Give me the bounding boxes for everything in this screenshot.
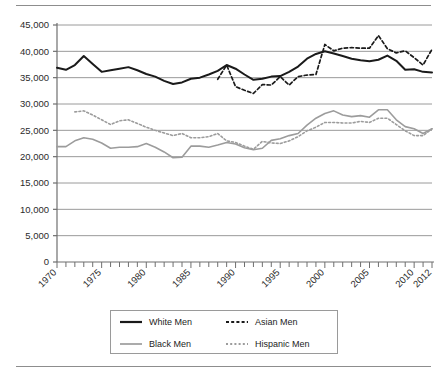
x-tick-label: 2012 xyxy=(411,267,434,290)
legend-label-asian-men: Asian Men xyxy=(255,317,298,327)
bottom-horizontal-rule xyxy=(16,366,431,367)
x-tick-label: 2005 xyxy=(348,267,371,290)
series-line-white-men xyxy=(57,51,432,84)
legend-swatch-black-men xyxy=(120,339,142,349)
y-tick-label: 5,000 xyxy=(25,230,49,241)
x-tick-label: 1980 xyxy=(125,267,148,290)
legend-label-black-men: Black Men xyxy=(149,339,191,349)
top-horizontal-rule xyxy=(16,5,431,6)
legend-entry-hispanic-men: Hispanic Men xyxy=(217,333,339,355)
x-tick-label: 1985 xyxy=(170,267,193,290)
legend-label-white-men: White Men xyxy=(149,317,192,327)
legend-label-hispanic-men: Hispanic Men xyxy=(255,339,310,349)
x-tick-label: 1970 xyxy=(36,267,59,290)
x-tick-label: 1975 xyxy=(80,267,103,290)
x-tick-label: 2010 xyxy=(393,267,416,290)
y-tick-label: 30,000 xyxy=(20,98,49,109)
x-axis-tick-labels: 1970197519801985199019952000200520102012 xyxy=(36,267,434,290)
legend-entry-white-men: White Men xyxy=(111,311,217,333)
line-chart: 05,00010,00015,00020,00025,00030,00035,0… xyxy=(0,8,447,308)
x-tick-label: 1995 xyxy=(259,267,282,290)
y-tick-label: 0 xyxy=(44,256,49,267)
legend-swatch-asian-men xyxy=(226,317,248,327)
legend-swatch-white-men xyxy=(120,317,142,327)
data-series-group xyxy=(57,36,432,158)
series-line-black-men xyxy=(57,110,432,158)
y-tick-label: 15,000 xyxy=(20,177,49,188)
y-tick-label: 20,000 xyxy=(20,151,49,162)
x-tick-label: 2000 xyxy=(304,267,327,290)
legend-swatch-hispanic-men xyxy=(226,339,248,349)
y-tick-label: 40,000 xyxy=(20,46,49,57)
y-axis-tick-labels: 05,00010,00015,00020,00025,00030,00035,0… xyxy=(20,19,49,267)
figure-container: 05,00010,00015,00020,00025,00030,00035,0… xyxy=(0,0,447,373)
y-tick-label: 35,000 xyxy=(20,72,49,83)
gridlines-group xyxy=(57,25,432,236)
x-tick-label: 1990 xyxy=(214,267,237,290)
chart-legend: White Men Asian Men Black Men Hispanic M… xyxy=(110,310,338,354)
y-tick-label: 45,000 xyxy=(20,19,49,30)
y-tick-label: 10,000 xyxy=(20,204,49,215)
legend-entry-asian-men: Asian Men xyxy=(217,311,339,333)
y-tick-label: 25,000 xyxy=(20,125,49,136)
x-tick-marks-group xyxy=(57,262,432,268)
legend-entry-black-men: Black Men xyxy=(111,333,217,355)
